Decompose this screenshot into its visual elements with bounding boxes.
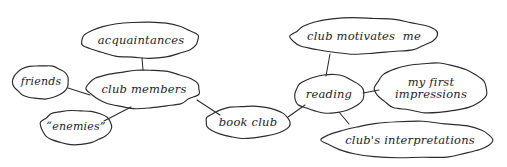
node-bubble-club-members[interactable] <box>86 70 200 109</box>
concept-map-canvas: acquaintancesfriendsclub members“enemies… <box>0 0 507 167</box>
edge-reading-my-first-impressions <box>363 90 379 93</box>
node-bubble-reading[interactable] <box>295 74 364 113</box>
edge-acquaintances-club-members <box>142 58 143 70</box>
node-bubble-friends[interactable] <box>12 66 68 99</box>
edge-enemies-club-members <box>104 107 131 121</box>
edge-reading-clubs-interpretations <box>339 112 349 124</box>
bubbles-layer <box>12 18 493 158</box>
edge-club-members-book-club <box>197 100 220 115</box>
node-bubble-clubs-interpretations[interactable] <box>321 121 493 158</box>
node-bubble-my-first-impressions[interactable] <box>374 63 487 113</box>
edge-friends-club-members <box>68 88 90 95</box>
node-bubble-enemies[interactable] <box>40 110 112 144</box>
node-bubble-book-club[interactable] <box>206 106 290 138</box>
concept-map-svg <box>0 0 507 167</box>
edge-club-motivates-me-reading <box>326 54 330 76</box>
node-bubble-club-motivates-me[interactable] <box>290 18 438 55</box>
node-bubble-acquaintances[interactable] <box>81 22 198 58</box>
